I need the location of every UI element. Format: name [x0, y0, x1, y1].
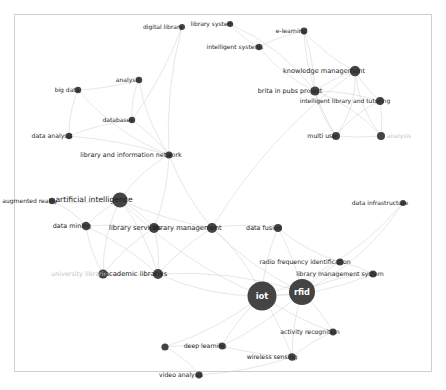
node-circle-unlabeled-node-left[interactable] [161, 343, 168, 350]
node-label-wireless-sensing: wireless sensing [247, 353, 298, 361]
node-label-library-management-system: library management system [296, 270, 384, 278]
node-label-data-infrastructure: data infrastructure [352, 199, 409, 206]
graph-edge [158, 228, 212, 274]
graph-edge [336, 136, 381, 137]
graph-node-data-infrastructure[interactable]: data infrastructure [352, 199, 409, 206]
graph-node-data-fusion[interactable]: data fusion [246, 224, 282, 232]
graph-edge [132, 80, 139, 120]
nodes-layer[interactable]: digital librarylibrary systemintelligent… [2, 20, 411, 379]
network-graph[interactable]: digital librarylibrary systemintelligent… [0, 0, 446, 390]
graph-node-intelligent-systems[interactable]: intelligent systems [207, 43, 264, 51]
graph-edge [165, 296, 262, 347]
graph-node-unlabeled-node-left[interactable] [161, 343, 168, 350]
node-label-augmented-reality: augmented reality [2, 197, 58, 205]
node-label-data-mining: data mining [53, 222, 91, 230]
graph-edge [120, 200, 158, 274]
graph-edge [154, 155, 169, 228]
node-label-university-libraries: university libraries [51, 270, 111, 278]
node-label-big-data: big data [55, 86, 80, 94]
graph-edge [336, 101, 380, 136]
node-label-rfid: rfid [294, 287, 310, 297]
graph-edge [292, 332, 333, 357]
node-label-intelligent-library-and-tutoring: intelligent library and tutoring [300, 97, 391, 105]
graph-node-data-mining[interactable]: data mining [53, 222, 91, 230]
graph-node-iot[interactable]: iot [248, 282, 277, 311]
graph-node-multi-user[interactable]: multi user [307, 132, 340, 140]
node-label-radio-frequency-identification: radio frequency identification [259, 258, 350, 266]
graph-edge [69, 90, 78, 136]
graph-node-data-analysis[interactable]: data analysis [32, 132, 73, 140]
graph-node-databases[interactable]: databases [103, 116, 136, 124]
node-label-library-and-information-network: library and information network [80, 151, 182, 159]
node-label-multi-user: multi user [307, 132, 339, 139]
node-label-digital-library: digital library [143, 23, 183, 31]
node-label-e-learning: e-learning [276, 27, 307, 35]
node-circle-analysis-faded[interactable] [377, 132, 385, 140]
graph-node-university-libraries[interactable]: university libraries [51, 269, 111, 278]
graph-edge [158, 274, 262, 296]
node-label-analysis-faded: analysis [387, 132, 411, 140]
node-label-knowledge-management: knowledge management [283, 67, 365, 75]
node-label-brita-in-pubs-project: brita in pubs project [258, 87, 323, 95]
node-label-library-system: library system [191, 20, 234, 28]
node-label-iot: iot [256, 291, 269, 301]
node-label-databases: databases [103, 116, 134, 123]
node-label-artificial-intelligence: artificial intelligence [55, 195, 132, 204]
graph-node-library-system[interactable]: library system [191, 20, 234, 28]
graph-edge [380, 101, 382, 136]
node-label-activity-recognition: activity recognition [280, 328, 340, 336]
graph-edge [304, 31, 355, 71]
graph-edge [154, 228, 159, 274]
graph-edge [120, 200, 262, 296]
graph-node-intelligent-library-and-tutoring[interactable]: intelligent library and tutoring [300, 97, 391, 105]
graph-node-knowledge-management[interactable]: knowledge management [283, 66, 365, 76]
graph-node-big-data[interactable]: big data [55, 86, 82, 94]
node-label-video-analysis: video analysis [159, 371, 203, 379]
graph-edge [230, 24, 315, 91]
graph-node-library-and-information-network[interactable]: library and information network [80, 151, 182, 159]
graph-node-augmented-reality[interactable]: augmented reality [2, 197, 58, 205]
graph-node-video-analysis[interactable]: video analysis [159, 371, 203, 379]
graph-edge [103, 228, 154, 274]
graph-node-e-learning[interactable]: e-learning [276, 27, 308, 35]
node-label-deep-learning: deep learning [184, 342, 227, 350]
node-label-intelligent-systems: intelligent systems [207, 43, 264, 51]
graph-edge [120, 155, 169, 200]
graph-edge [86, 226, 158, 274]
node-label-data-fusion: data fusion [246, 224, 282, 232]
node-label-library-management: library management [152, 224, 222, 232]
node-label-analysis: analysis [116, 76, 140, 84]
graph-node-radio-frequency-identification[interactable]: radio frequency identification [259, 258, 350, 266]
graph-node-analysis[interactable]: analysis [116, 76, 142, 84]
graph-node-deep-learning[interactable]: deep learning [184, 342, 227, 350]
graph-node-rfid[interactable]: rfid [289, 279, 315, 305]
network-map-canvas[interactable]: digital librarylibrary systemintelligent… [0, 0, 446, 390]
node-label-academic-libraries: academic libraries [105, 270, 168, 278]
graph-node-library-management-system[interactable]: library management system [296, 270, 384, 278]
graph-edge [168, 27, 182, 155]
graph-edge [132, 27, 182, 120]
graph-edge [304, 31, 315, 91]
graph-node-digital-library[interactable]: digital library [143, 23, 185, 31]
node-label-data-analysis: data analysis [32, 132, 73, 140]
graph-node-brita-in-pubs-project[interactable]: brita in pubs project [258, 86, 323, 95]
graph-edge [139, 80, 169, 155]
graph-node-wireless-sensing[interactable]: wireless sensing [247, 353, 298, 361]
graph-node-activity-recognition[interactable]: activity recognition [280, 328, 340, 336]
graph-node-academic-libraries[interactable]: academic libraries [105, 269, 168, 279]
graph-node-artificial-intelligence[interactable]: artificial intelligence [55, 192, 132, 207]
graph-node-analysis-faded[interactable]: analysis [377, 132, 411, 140]
graph-edge [103, 200, 120, 274]
graph-edge [302, 203, 403, 292]
graph-node-library-management[interactable]: library management [152, 223, 222, 233]
graph-edge [169, 155, 212, 228]
